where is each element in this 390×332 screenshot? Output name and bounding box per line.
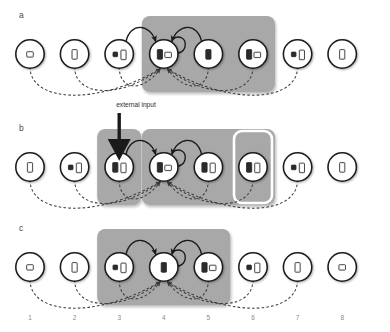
- device-glyph-phone: [157, 50, 162, 60]
- node-circle: [150, 153, 178, 181]
- device-glyph-phone: [340, 50, 345, 60]
- node-b-4[interactable]: [150, 153, 178, 181]
- panel-letter-b: b: [19, 123, 24, 133]
- node-b-8[interactable]: [328, 153, 356, 181]
- device-glyph-small: [113, 265, 118, 270]
- device-glyph-phone: [121, 263, 126, 273]
- device-glyph-tablet: [165, 52, 172, 57]
- device-glyph-phone: [247, 163, 252, 173]
- node-a-1[interactable]: [16, 40, 44, 68]
- node-circle: [150, 40, 178, 68]
- axis-label-8: 8: [335, 314, 349, 321]
- device-glyph-phone: [121, 163, 126, 173]
- node-c-3[interactable]: [105, 253, 133, 281]
- node-c-2[interactable]: [60, 253, 88, 281]
- node-circle: [239, 253, 267, 281]
- device-glyph-phone: [161, 263, 166, 273]
- node-c-5[interactable]: [194, 253, 222, 281]
- axis-label-6: 6: [246, 314, 260, 321]
- node-a-8[interactable]: [328, 40, 356, 68]
- axis-label-7: 7: [291, 314, 305, 321]
- axis-label-4: 4: [157, 314, 171, 321]
- device-glyph-tablet: [209, 265, 216, 270]
- node-c-7[interactable]: [283, 253, 311, 281]
- node-c-1[interactable]: [16, 253, 44, 281]
- device-glyph-phone: [295, 263, 300, 273]
- axis-label-1: 1: [23, 314, 37, 321]
- device-glyph-phone: [210, 163, 215, 173]
- device-glyph-tablet: [27, 52, 34, 57]
- device-glyph-small: [247, 265, 252, 270]
- device-glyph-tablet: [27, 265, 34, 270]
- figure-canvas: external inputabc12345678: [0, 0, 390, 332]
- node-b-6[interactable]: [239, 153, 267, 181]
- axis-label-3: 3: [112, 314, 126, 321]
- node-circle: [239, 153, 267, 181]
- device-glyph-phone: [255, 263, 260, 273]
- node-a-5[interactable]: [194, 40, 222, 68]
- device-glyph-tablet: [165, 165, 172, 170]
- device-glyph-phone: [247, 50, 252, 60]
- device-glyph-phone: [113, 163, 118, 173]
- node-b-5[interactable]: [194, 153, 222, 181]
- device-glyph-phone: [27, 163, 32, 173]
- device-glyph-phone: [76, 163, 81, 173]
- device-glyph-phone: [157, 163, 162, 173]
- node-a-6[interactable]: [239, 40, 267, 68]
- node-b-1[interactable]: [16, 153, 44, 181]
- node-circle: [60, 153, 88, 181]
- node-circle: [105, 40, 133, 68]
- device-glyph-phone: [202, 263, 207, 273]
- node-b-7[interactable]: [283, 153, 311, 181]
- device-glyph-small: [68, 165, 73, 170]
- node-a-3[interactable]: [105, 40, 133, 68]
- device-glyph-small: [291, 52, 296, 57]
- node-circle: [239, 40, 267, 68]
- node-c-8[interactable]: [328, 253, 356, 281]
- node-b-3[interactable]: [105, 153, 133, 181]
- node-a-7[interactable]: [283, 40, 311, 68]
- device-glyph-phone: [72, 263, 77, 273]
- node-c-4[interactable]: [150, 253, 178, 281]
- axis-label-5: 5: [201, 314, 215, 321]
- panel-letter-a: a: [19, 10, 24, 20]
- device-glyph-phone: [340, 163, 345, 173]
- node-circle: [105, 253, 133, 281]
- device-glyph-phone: [121, 50, 126, 60]
- node-circle: [283, 40, 311, 68]
- device-glyph-tablet: [254, 52, 261, 57]
- panel-letter-c: c: [19, 223, 23, 233]
- node-circle: [194, 253, 222, 281]
- dashed-arrow: [30, 67, 160, 95]
- device-glyph-tablet: [339, 265, 346, 270]
- device-glyph-small: [291, 165, 296, 170]
- device-glyph-small: [113, 52, 118, 57]
- device-glyph-phone: [206, 50, 211, 60]
- diagram-svg: [0, 0, 390, 332]
- node-c-6[interactable]: [239, 253, 267, 281]
- node-circle: [194, 153, 222, 181]
- axis-label-2: 2: [68, 314, 82, 321]
- node-a-2[interactable]: [60, 40, 88, 68]
- node-circle: [283, 153, 311, 181]
- node-circle: [105, 153, 133, 181]
- external-input-label: external input: [116, 101, 156, 108]
- device-glyph-phone: [72, 50, 77, 60]
- device-glyph-phone: [299, 163, 304, 173]
- device-glyph-phone: [299, 50, 304, 60]
- device-glyph-phone: [202, 163, 207, 173]
- node-b-2[interactable]: [60, 153, 88, 181]
- node-a-4[interactable]: [150, 40, 178, 68]
- device-glyph-phone: [255, 163, 260, 173]
